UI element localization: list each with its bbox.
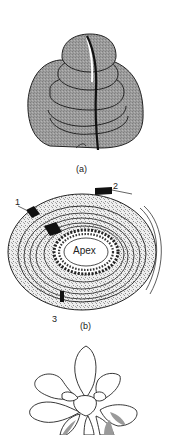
panel-c-rosette-drawing xyxy=(0,340,169,435)
apex-text: Apex xyxy=(73,245,96,256)
panel-b-caption: (b) xyxy=(80,322,91,331)
rosette-illustration xyxy=(0,340,169,435)
marker-label-2: 2 xyxy=(113,182,118,191)
bud-illustration xyxy=(0,28,169,156)
caption-text: (b) xyxy=(80,321,91,331)
caption-text: (a) xyxy=(76,164,87,174)
apex-label: Apex xyxy=(73,246,96,256)
panel-a-bud-drawing xyxy=(0,28,169,156)
marker-text: 1 xyxy=(15,197,20,207)
marker-text: 2 xyxy=(113,181,118,191)
marker-text: 3 xyxy=(52,314,57,324)
marker-label-3: 3 xyxy=(52,315,57,324)
marker-label-1: 1 xyxy=(15,198,20,207)
panel-a-caption: (a) xyxy=(76,165,87,174)
